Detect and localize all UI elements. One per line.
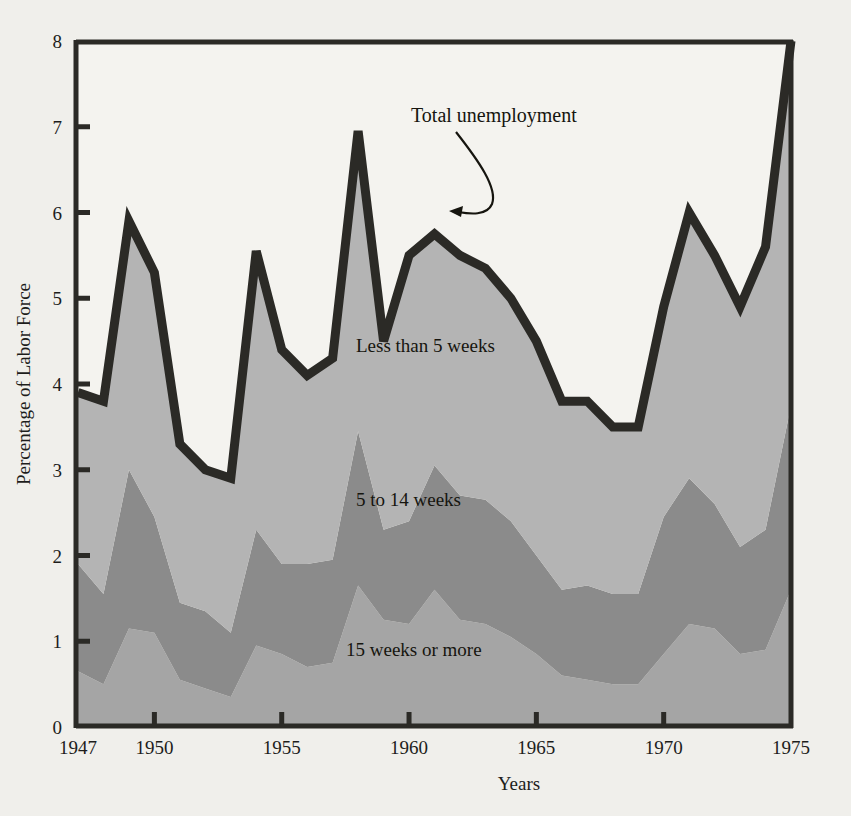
band-label-5-to-14-weeks: 5 to 14 weeks — [356, 489, 461, 510]
x-axis-title: Years — [498, 773, 540, 794]
x-tick-label: 1975 — [772, 737, 810, 758]
x-tick-label: 1955 — [263, 737, 301, 758]
y-tick-label: 5 — [53, 288, 63, 309]
x-tick-label: 1965 — [517, 737, 555, 758]
band-label-less-than-5-weeks: Less than 5 weeks — [356, 335, 495, 356]
x-tick-label: 1970 — [645, 737, 683, 758]
y-tick-label: 2 — [53, 546, 63, 567]
annotation-total-unemployment: Total unemployment — [411, 104, 577, 127]
band-label-15-weeks-or-more: 15 weeks or more — [346, 639, 482, 660]
y-tick-label: 0 — [53, 717, 63, 738]
y-tick-label: 6 — [53, 203, 63, 224]
y-tick-label: 3 — [53, 460, 63, 481]
unemployment-area-chart: 012345678 1947195019551960196519701975 Y… — [0, 0, 851, 816]
y-tick-label: 1 — [53, 631, 63, 652]
y-axis-title: Percentage of Labor Force — [13, 283, 34, 485]
chart-figure: 012345678 1947195019551960196519701975 Y… — [0, 0, 851, 816]
y-tick-label: 8 — [53, 31, 63, 52]
x-tick-label: 1947 — [59, 737, 97, 758]
y-axis-tick-labels: 012345678 — [53, 31, 63, 738]
x-tick-label: 1960 — [390, 737, 428, 758]
x-tick-label: 1950 — [135, 737, 173, 758]
y-tick-label: 7 — [53, 117, 63, 138]
y-tick-label: 4 — [53, 374, 63, 395]
